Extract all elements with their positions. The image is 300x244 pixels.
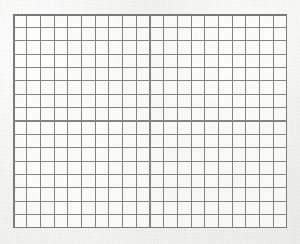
graph-paper-screenshot <box>0 0 300 244</box>
graph-paper-grid <box>13 14 287 228</box>
grid-svg <box>13 14 287 228</box>
